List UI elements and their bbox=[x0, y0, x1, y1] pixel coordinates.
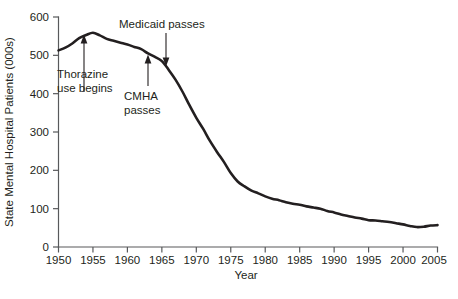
annotation-thorazine-line1: Thorazine bbox=[57, 68, 108, 80]
y-tick-label-600: 600 bbox=[30, 11, 49, 23]
chart-figure: State Mental Hospital Patients (000s) 60… bbox=[0, 0, 458, 299]
x-tick-label-2005: 2005 bbox=[421, 254, 447, 266]
data-series-line bbox=[59, 33, 438, 227]
x-tick-label-1980: 1980 bbox=[252, 254, 278, 266]
x-tick-label-1960: 1960 bbox=[115, 254, 141, 266]
y-tick-label-400: 400 bbox=[30, 88, 49, 100]
annotation-thorazine-line2: use begins bbox=[57, 82, 113, 94]
x-tick-label-1970: 1970 bbox=[184, 254, 210, 266]
x-tick-label-1985: 1985 bbox=[287, 254, 313, 266]
x-tick-label-1950: 1950 bbox=[46, 254, 72, 266]
x-axis-title-text: Year bbox=[234, 269, 257, 281]
y-tick-label-100: 100 bbox=[30, 203, 49, 215]
y-tick-label-300: 300 bbox=[30, 126, 49, 138]
y-tick-label-0: 0 bbox=[43, 241, 49, 253]
x-tick-label-1995: 1995 bbox=[356, 254, 382, 266]
annotation-cmha-line1: CMHA bbox=[124, 90, 158, 102]
annotation-cmha: CMHA passes bbox=[124, 55, 161, 117]
x-tick-label-1965: 1965 bbox=[149, 254, 175, 266]
x-tick-label-2000: 2000 bbox=[390, 254, 416, 266]
y-axis-ticks: 600 500 400 300 200 100 0 bbox=[30, 11, 59, 253]
y-tick-label-500: 500 bbox=[30, 49, 49, 61]
annotation-medicaid-line1: Medicaid passes bbox=[119, 18, 205, 30]
x-tick-label-1975: 1975 bbox=[218, 254, 244, 266]
annotation-thorazine: Thorazine use begins bbox=[57, 35, 113, 95]
y-axis-title: State Mental Hospital Patients (000s) bbox=[3, 37, 15, 227]
x-axis-ticks: 1950 1955 1960 1965 1970 1975 1980 1985 … bbox=[46, 247, 447, 266]
chart-svg: State Mental Hospital Patients (000s) 60… bbox=[0, 0, 458, 299]
annotation-cmha-line2: passes bbox=[124, 104, 161, 116]
y-axis-title-text: State Mental Hospital Patients (000s) bbox=[3, 37, 15, 227]
y-tick-label-200: 200 bbox=[30, 164, 49, 176]
x-tick-label-1955: 1955 bbox=[80, 254, 106, 266]
x-tick-label-1990: 1990 bbox=[321, 254, 347, 266]
annotation-medicaid: Medicaid passes bbox=[119, 18, 205, 67]
